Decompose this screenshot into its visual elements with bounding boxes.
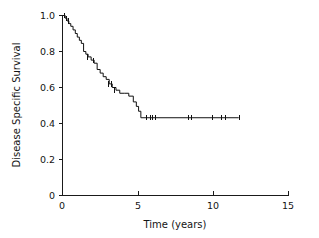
y-axis-title: Disease Specific Survival — [11, 43, 22, 168]
y-tick-label-0.2: 0.2 — [40, 154, 55, 165]
y-axis-tick-labels: 1.0 0.8 0.6 0.4 0.2 0 — [40, 10, 55, 201]
y-tick-label-0.8: 0.8 — [40, 46, 55, 57]
x-axis-tick-labels: 0 5 10 15 — [59, 200, 294, 211]
x-tick-label-10: 10 — [207, 200, 219, 211]
x-axis-title: Time (years) — [143, 219, 207, 230]
y-tick-label-0: 0 — [49, 190, 55, 201]
x-axis-ticks — [139, 191, 289, 196]
survival-curve — [63, 16, 239, 118]
censor-marks — [65, 13, 240, 120]
y-tick-label-0.6: 0.6 — [40, 82, 55, 93]
x-tick-label-0: 0 — [59, 200, 65, 211]
y-axis-ticks — [59, 16, 63, 196]
x-tick-label-5: 5 — [135, 200, 141, 211]
y-tick-label-0.4: 0.4 — [40, 118, 55, 129]
x-tick-label-15: 15 — [282, 200, 294, 211]
y-tick-label-1.0: 1.0 — [40, 10, 55, 21]
kaplan-meier-plot: 1.0 0.8 0.6 0.4 0.2 0 0 5 10 15 Time (ye… — [0, 0, 319, 238]
chart-container: 1.0 0.8 0.6 0.4 0.2 0 0 5 10 15 Time (ye… — [0, 0, 319, 238]
